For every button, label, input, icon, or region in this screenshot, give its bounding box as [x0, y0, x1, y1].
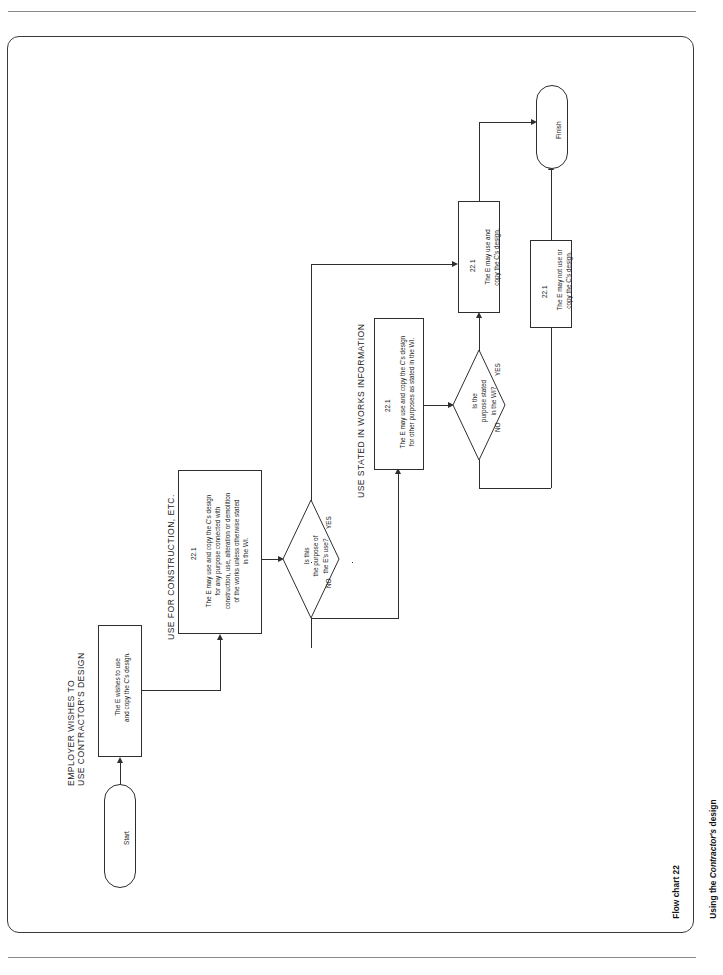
caption-line-1: Flow chart 22 — [671, 865, 681, 919]
connector-maynotuse-to-finish — [551, 170, 552, 240]
node-other-purposes-clause: 22.1 — [384, 400, 391, 412]
caption-line-2-prefix: Using the — [708, 878, 718, 918]
connector-start-to-wish — [120, 763, 121, 784]
flowchart-caption: Flow chart 22 Using the Contractor's des… — [657, 799, 723, 928]
node-may-use-clause: 22.1 — [469, 260, 476, 272]
connector-other-to-stated — [424, 405, 448, 406]
connector-mayuse-to-finish-h — [479, 122, 531, 123]
connector-construction-to-purpose — [262, 559, 278, 560]
node-start[interactable] — [104, 784, 136, 888]
node-start-label: Start — [123, 831, 130, 845]
node-finish[interactable] — [536, 85, 568, 169]
connector-stated-no-v — [479, 460, 480, 488]
caption-line-2-suffix: design — [708, 799, 718, 828]
node-wish-text: The E wishes to use and copy the C's des… — [113, 628, 132, 746]
branch-label-stated-no: NO — [494, 422, 501, 432]
caption-line-2-italic: Contractor's — [708, 829, 718, 878]
connector-mayuse-to-finish-v — [479, 122, 480, 201]
node-construction-use-text: The E may use and copy the C's design fo… — [204, 476, 250, 626]
arrowhead-start-to-wish — [117, 757, 123, 763]
node-finish-label: Finish — [555, 121, 562, 139]
connector-purpose-no-v2 — [398, 474, 399, 619]
connector-wish-to-construction-v — [220, 640, 221, 691]
arrowhead-wish-to-construction — [217, 634, 223, 640]
node-may-use-text: The E may use and copy the C's design. — [483, 209, 502, 305]
connector-stated-no-h — [479, 488, 551, 489]
section-header-employer: EMPLOYER WISHES TO USE CONTRACTOR'S DESI… — [66, 652, 87, 786]
page-bottom-rule — [8, 957, 696, 958]
connector-wish-to-construction-h — [142, 690, 220, 691]
connector-purpose-yes-v — [311, 448, 312, 501]
connector-stated-yes-v — [479, 318, 480, 351]
connector-purpose-no-h — [311, 618, 398, 619]
branch-label-stated-yes: YES — [494, 363, 501, 376]
section-header-construction: USE FOR CONSTRUCTION, ETC. — [166, 494, 176, 640]
connector-purpose-no-spacer3 — [352, 562, 353, 563]
page-top-rule — [8, 11, 696, 12]
connector-purpose-no-v — [311, 618, 312, 648]
connector-purpose-no-spacer2 — [311, 562, 312, 563]
connector-stated-no-v2 — [551, 328, 552, 488]
branch-label-purpose-no: NO — [325, 578, 332, 588]
connector-purpose-yes-h — [311, 264, 452, 265]
node-may-not-use-text: The E may not use or copy the C's design… — [555, 238, 574, 322]
node-construction-use-clause: 22.1 — [190, 548, 197, 560]
branch-label-purpose-yes: YES — [325, 516, 332, 529]
section-header-works-information: USE STATED IN WORKS INFORMATION — [356, 324, 366, 498]
node-may-not-use-clause: 22.1 — [541, 286, 548, 298]
node-other-purposes-text: The E may use and copy the C's design fo… — [398, 322, 417, 462]
connector-purpose-yes-v2 — [311, 264, 312, 449]
